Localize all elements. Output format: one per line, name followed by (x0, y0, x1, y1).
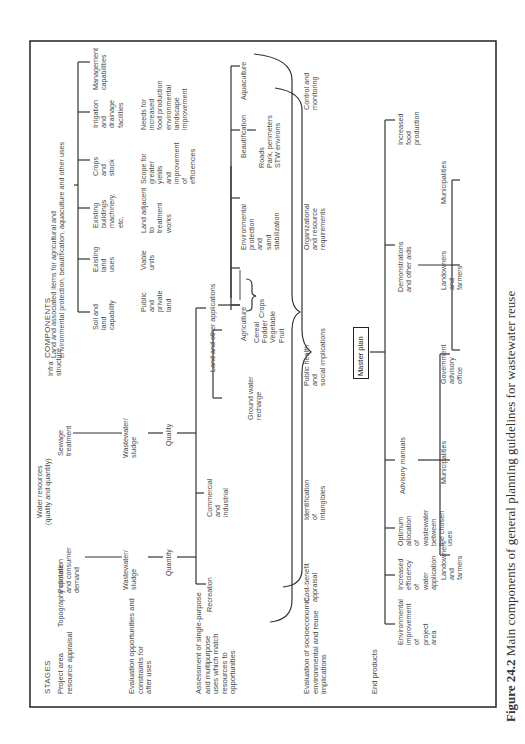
constraint-public-private: Public and private land (140, 290, 173, 312)
identification-intangibles: Identification of intangibles (303, 480, 328, 520)
figure-number: Figure 24.2 (503, 659, 518, 722)
figure-caption: Figure 24.2 Main components of general p… (503, 291, 519, 722)
public-health: Public health and social implications (303, 328, 328, 386)
demonstration-municipalities: Municipalities (440, 161, 448, 204)
water-resources: Water resources (quality and quantity) (36, 458, 52, 525)
quality: Quality (165, 424, 173, 446)
land-other-applications: Land and other applications (209, 284, 217, 372)
demonstration-landowners: Landowners and farmers (440, 251, 465, 290)
beautification: Beautification (240, 115, 248, 158)
environmental-protection: Environmental protection and sand stabil… (240, 204, 281, 250)
population-demand: Population and consumer demand (57, 547, 82, 593)
end-product-efficiency: Increased efficiency of water applicatio… (397, 556, 438, 590)
stage-evaluation-opportunities: Evaluation opportunities and constraints… (128, 598, 154, 694)
land-child-irrigation: Irrigation and drainage facilities (92, 100, 125, 128)
advisory-landowners: Landowners and farmers (440, 541, 465, 580)
commercial-industrial: Commercial and industrial (206, 479, 231, 517)
constraint-viable-units: Viable units (140, 250, 156, 270)
stage-end-products: End products (371, 649, 380, 694)
end-product-demonstrations: Demonstrations and other aids (397, 242, 413, 292)
constraint-needs: Needs for increased food production envi… (140, 80, 189, 130)
figure-caption-text: Main components of general planning guid… (503, 291, 518, 660)
land-associated-items: Land and associated items for agricultur… (50, 142, 66, 358)
land-child-crops-stock: Crops and stock (92, 157, 117, 176)
quantity: Quantity (165, 549, 173, 576)
land-child-buildings: Existing buildings machinery, etc. (92, 193, 125, 228)
organizational-requirements: Organizational and resource requirements (303, 204, 328, 250)
land-child-management: Management capabilities (92, 48, 108, 90)
constraint-land-adjacent: Land adjacent to treatment works (140, 188, 173, 233)
aquaculture: Aquaculture (240, 62, 248, 100)
master-plan-label: Master plan (356, 336, 366, 376)
stage-evaluation-socioeconomic: Evaluation of socioeconomic, environment… (303, 596, 329, 694)
control-monitoring: Control and monitoring (303, 73, 319, 110)
stages-header: STAGES (43, 660, 52, 694)
constraint-scope: Scope for greater yields and improvement… (140, 142, 197, 184)
end-product-environmental: Environmental improvement of project are… (397, 599, 438, 645)
recreation: Recreation (206, 577, 214, 612)
wastewater-sludge-b: Wastewater/ sludge (122, 418, 138, 458)
crops: Crops (258, 299, 266, 318)
wastewater-sludge-a: Wastewater/ sludge (122, 550, 138, 590)
agriculture: Agriculture (240, 307, 248, 341)
ground-water-recharge: Ground water recharge (247, 376, 263, 420)
stage-project-area: Project area resource appraisal (57, 632, 74, 694)
cost-benefit-appraisal: Cost-benefit appraisal (303, 563, 319, 602)
advisory-government-office: Government advisory office (440, 344, 465, 384)
stage-assessment: Assessment of single-purpose and multipu… (195, 592, 238, 694)
sewage-treatment: Sewage treatment (57, 426, 73, 456)
land-child-soil: Soil and land capability (92, 300, 117, 330)
land-child-existing-uses: Existing land uses (92, 247, 117, 272)
end-product-food-production: Increased food production (397, 111, 422, 145)
advisory-municipalities: Municipalities (440, 441, 448, 484)
end-product-advisory-manuals: Advisory manuals (399, 437, 407, 494)
beautification-list: Roads Park, perimeters STW environs (258, 115, 283, 168)
master-plan-box: Master plan (353, 327, 369, 379)
